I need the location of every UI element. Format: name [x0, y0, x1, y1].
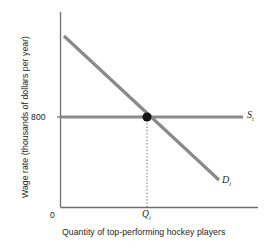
demand-curve-label-subscript: i: [229, 180, 231, 187]
x-tick-label-quantity: Qi: [142, 210, 151, 221]
equilibrium-point-marker: [142, 112, 151, 121]
x-tick-label-quantity-text: Q: [142, 209, 149, 219]
x-tick-label-quantity-subscript: i: [149, 214, 151, 221]
y-axis-title: Wage rate (thousands of dollars per year…: [21, 36, 30, 198]
supply-curve-label: Si: [247, 110, 254, 122]
demand-curve: [64, 36, 219, 180]
y-tick-label-800: 800: [31, 113, 46, 122]
supply-curve-label-subscript: i: [252, 115, 254, 122]
chart-figure: 800 0 Si Di Qi Quantity of top-performin…: [0, 0, 271, 250]
chart-canvas: [0, 0, 271, 250]
x-axis-title: Quantity of top-performing hockey player…: [62, 228, 225, 237]
demand-curve-label: Di: [222, 175, 231, 187]
origin-label: 0: [50, 211, 55, 220]
